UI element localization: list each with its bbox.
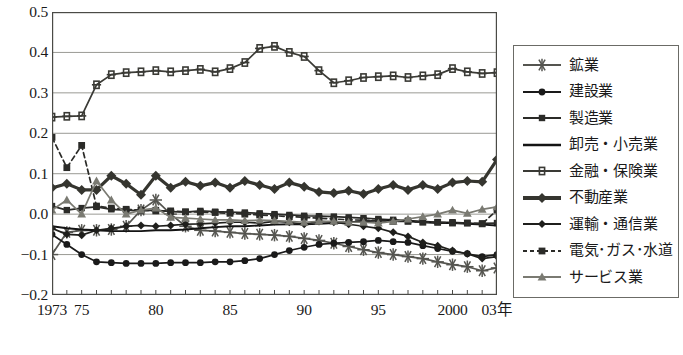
legend-item[interactable]: サービス業 xyxy=(520,264,674,291)
x-tick-label: 85 xyxy=(222,302,237,318)
data-point xyxy=(138,260,145,267)
legend-item[interactable]: 製造業 xyxy=(520,105,674,132)
data-point xyxy=(539,88,546,95)
data-point xyxy=(212,258,219,265)
legend-item[interactable]: 電気･ガス･水道 xyxy=(520,238,674,265)
legend-label: 鉱業 xyxy=(564,58,598,73)
data-point xyxy=(240,59,249,66)
legend-marker-asterisk-icon xyxy=(520,55,564,75)
data-point xyxy=(373,184,383,194)
chart-legend: 鉱業建設業製造業卸売・小売業金融・保険業不動産業運輸・通信業電気･ガス･水道サー… xyxy=(513,45,679,298)
data-point xyxy=(62,113,71,120)
data-point xyxy=(182,259,189,266)
legend-label: 製造業 xyxy=(564,111,613,126)
legend-item[interactable]: 建設業 xyxy=(520,79,674,106)
data-point xyxy=(402,250,414,262)
x-tick-label: 03年 xyxy=(482,302,513,318)
legend-marker-thickdiamond-icon xyxy=(520,188,564,208)
y-tick-label: 0.0 xyxy=(2,206,48,222)
data-point xyxy=(404,232,412,240)
data-point xyxy=(284,178,294,188)
x-tick-label: 90 xyxy=(297,302,312,318)
y-tick-label: 0.3 xyxy=(2,85,48,101)
data-point xyxy=(433,184,443,194)
data-point xyxy=(108,259,115,266)
data-point xyxy=(464,220,471,227)
data-point xyxy=(212,209,219,216)
data-point xyxy=(329,79,338,86)
x-tick-label: 95 xyxy=(371,302,386,318)
data-point xyxy=(152,260,159,267)
y-axis-labels: 0.50.40.30.20.10.0−0.1−0.2 xyxy=(0,0,48,300)
data-point xyxy=(462,176,472,186)
data-point xyxy=(63,164,70,171)
legend-item[interactable]: 金融・保険業 xyxy=(520,158,674,185)
data-point xyxy=(448,206,457,214)
x-tick-label: 75 xyxy=(74,302,89,318)
data-point xyxy=(463,68,472,75)
data-point xyxy=(316,241,323,248)
data-point xyxy=(298,232,310,244)
data-point xyxy=(390,238,397,245)
data-point xyxy=(387,248,399,260)
x-axis-labels: 19737580859095200003年 xyxy=(0,298,520,324)
data-point xyxy=(137,221,145,229)
data-point xyxy=(239,227,251,239)
legend-label: 不動産業 xyxy=(564,190,628,205)
y-tick-label: 0.1 xyxy=(2,166,48,182)
legend-label: 卸売・小売業 xyxy=(564,137,657,152)
legend-item[interactable]: 運輸・通信業 xyxy=(520,211,674,238)
data-point xyxy=(463,250,471,258)
data-point xyxy=(108,205,115,212)
data-point xyxy=(77,112,86,119)
data-point xyxy=(283,230,295,242)
data-point xyxy=(479,220,486,227)
y-tick-label: 0.4 xyxy=(2,44,48,60)
data-point xyxy=(359,74,368,81)
data-point xyxy=(77,185,87,195)
data-point xyxy=(166,68,175,75)
data-point xyxy=(344,186,354,196)
data-point xyxy=(78,251,85,258)
legend-marker-none-icon xyxy=(520,135,564,155)
legend-marker-circle-icon xyxy=(520,82,564,102)
data-point xyxy=(92,81,101,88)
data-point xyxy=(224,226,236,238)
data-point xyxy=(93,203,100,210)
data-point xyxy=(299,182,309,192)
data-point xyxy=(93,226,101,234)
data-point xyxy=(418,72,427,79)
data-point xyxy=(539,115,545,121)
data-point xyxy=(197,259,204,266)
x-tick-label: 80 xyxy=(148,302,163,318)
data-point xyxy=(270,43,279,50)
data-point xyxy=(330,240,337,247)
data-point xyxy=(478,70,487,77)
legend-label: 金融・保険業 xyxy=(564,164,657,179)
data-point xyxy=(389,228,397,236)
legend-marker-square-icon xyxy=(520,108,564,128)
x-tick-label: 1973 xyxy=(37,302,67,318)
data-point xyxy=(418,180,428,190)
plot-area xyxy=(52,12,497,295)
data-point xyxy=(78,142,85,149)
data-point xyxy=(93,258,100,265)
x-tick-label: 2000 xyxy=(437,302,467,318)
data-point xyxy=(255,180,265,190)
data-point xyxy=(63,241,70,248)
legend-label: サービス業 xyxy=(564,270,643,285)
y-tick-label: 0.5 xyxy=(2,4,48,20)
data-point xyxy=(538,220,546,228)
data-point xyxy=(225,183,235,193)
data-point xyxy=(123,260,130,267)
legend-item[interactable]: 不動産業 xyxy=(520,185,674,212)
legend-item[interactable]: 卸売・小売業 xyxy=(520,132,674,159)
legend-label: 建設業 xyxy=(564,84,613,99)
data-point xyxy=(255,45,264,52)
data-point xyxy=(403,185,413,195)
data-point xyxy=(195,181,205,191)
legend-item[interactable]: 鉱業 xyxy=(520,52,674,79)
data-point xyxy=(122,69,131,76)
y-tick-label: −0.1 xyxy=(2,247,48,263)
data-point xyxy=(448,65,457,72)
